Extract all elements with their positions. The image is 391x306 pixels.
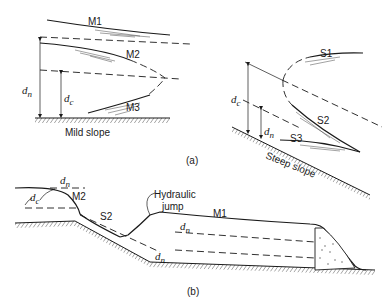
m2-curve-extension (130, 60, 165, 95)
s2-label: S2 (317, 115, 330, 126)
s1-curve (310, 53, 363, 57)
m2-label: M2 (126, 49, 140, 60)
mild-slope-diagram: M1 M2 M3 dn dc Mild slope (22, 16, 190, 138)
water-surface-profiles-figure: M1 M2 M3 dn dc Mild slope S1 S2 S3 (0, 0, 391, 306)
steep-critical-depth-line (245, 62, 282, 80)
steep-slope-label: Steep slope (264, 150, 317, 180)
mild-normal-depth-line (40, 37, 190, 44)
m2-b-label: M2 (72, 191, 86, 202)
mild-dc-label: dc (64, 92, 74, 107)
hydraulic-jump-label-line2: jump (161, 201, 184, 212)
channel-profile-diagram: dn dc M2 S2 M1 Hydraulic jump dn dn (15, 174, 375, 275)
s1-curve-extension (283, 57, 310, 80)
steep-dc-label: dc (231, 93, 241, 108)
m2-curve (40, 43, 130, 60)
s2-curve-extension (283, 80, 292, 105)
upstream-dn-label: dn (60, 174, 71, 189)
downstream-normal-depth-line (175, 250, 315, 258)
s3-label: S3 (290, 133, 303, 144)
m3-label: M3 (126, 102, 140, 113)
m1-curve (47, 20, 170, 35)
steep-critical-depth-line-dashed (282, 80, 382, 127)
steep-dn-label: dn (264, 125, 275, 140)
steep-slope-diagram: S1 S2 S3 dc dn Steep slope (231, 48, 382, 200)
downstream-critical-depth-line (175, 232, 315, 242)
panel-b-caption: (b) (187, 286, 199, 297)
hydraulic-jump-label-line1: Hydraulic (154, 189, 196, 200)
m1-b-label: M1 (213, 208, 227, 219)
s2-curve (292, 105, 360, 152)
panel-a-caption: (a) (186, 155, 198, 166)
upstream-dc-label: dc (30, 191, 40, 206)
s2-b-label: S2 (100, 211, 113, 222)
dam (315, 228, 355, 270)
mild-slope-label: Mild slope (65, 127, 110, 138)
m1-label: M1 (88, 16, 102, 27)
s1-label: S1 (320, 48, 333, 59)
mild-bed-hatch (35, 118, 170, 123)
mild-dn-label: dn (22, 84, 33, 99)
